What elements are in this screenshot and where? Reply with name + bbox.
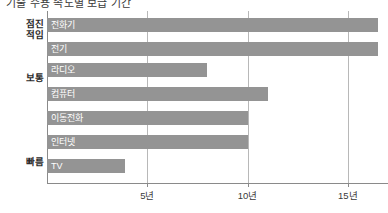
tick-mark [348,183,349,187]
bar-label: TV [51,160,63,172]
bar: 전화기 [47,18,378,32]
bar-label: 이동전화 [51,112,83,124]
x-tick-label: 10년 [238,188,258,202]
chart-title-clipped: 기술 수용 속도별 보급 기간 [0,0,388,9]
bar: 라디오 [47,63,207,77]
bar-label: 컴퓨터 [51,88,75,100]
chart-title-text: 기술 수용 속도별 보급 기간 [6,0,131,9]
gridline [348,11,349,183]
bar: 전기 [47,42,378,56]
bar-chart: 기술 수용 속도별 보급 기간 점진 적임보통빠름 전화기전기라디오컴퓨터이동전… [0,0,388,213]
x-tick-label: 15년 [338,188,358,202]
plot-area: 전화기전기라디오컴퓨터이동전화인터넷TV [47,11,388,183]
bar-label: 전화기 [51,19,75,31]
bar-label: 라디오 [51,64,75,76]
group-label: 보통 [4,72,44,83]
x-axis-line [47,183,388,184]
bar: 인터넷 [47,135,248,149]
bar-label: 전기 [51,43,67,55]
group-label: 빠름 [4,156,44,167]
tick-mark [248,183,249,187]
bar: 컴퓨터 [47,87,268,101]
bar-label: 인터넷 [51,136,75,148]
bar: 이동전화 [47,111,248,125]
group-label: 점진 적임 [4,18,44,40]
bar: TV [47,159,125,173]
x-tick-label: 5년 [140,188,154,202]
tick-mark [147,183,148,187]
